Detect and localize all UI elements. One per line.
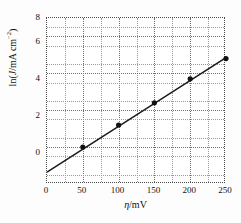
data-point bbox=[80, 145, 85, 150]
y-axis-title-prefix: ln( bbox=[7, 75, 18, 86]
data-point bbox=[188, 76, 193, 81]
y-tick-label: 2 bbox=[24, 110, 40, 121]
plot-area bbox=[46, 17, 225, 183]
chart-figure: 0 50 100 150 200 250 0 2 4 6 8 η/mV ln(J… bbox=[0, 0, 241, 223]
y-tick-label: 4 bbox=[24, 73, 40, 84]
x-tick-label: 100 bbox=[103, 185, 133, 196]
y-axis-title: ln(J/mA cm−2) bbox=[7, 0, 18, 128]
y-axis-title-unit: /mA cm bbox=[7, 39, 18, 71]
data-point bbox=[116, 122, 121, 127]
data-point bbox=[223, 56, 228, 61]
y-axis-title-exponent: −2 bbox=[5, 32, 12, 39]
x-tick-label: 250 bbox=[210, 185, 240, 196]
data-layer bbox=[47, 18, 226, 184]
x-tick-label: 150 bbox=[138, 185, 168, 196]
x-axis-title: η/mV bbox=[46, 199, 225, 210]
x-axis-title-unit: /mV bbox=[129, 199, 147, 210]
fit-line bbox=[47, 58, 226, 172]
y-axis-title-suffix: ) bbox=[7, 29, 18, 32]
y-axis-title-variable: J bbox=[7, 71, 18, 75]
y-tick-label: 8 bbox=[24, 12, 40, 23]
x-tick-label: 0 bbox=[31, 185, 61, 196]
x-tick-label: 50 bbox=[67, 185, 97, 196]
x-tick-label: 200 bbox=[174, 185, 204, 196]
data-point bbox=[152, 100, 157, 105]
y-tick-label: 0 bbox=[24, 147, 40, 158]
y-tick-label: 6 bbox=[24, 36, 40, 47]
